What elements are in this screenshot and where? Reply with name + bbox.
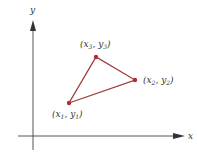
x-axis-arrow-icon (173, 133, 185, 139)
vertex-3-label: (x3, y3) (80, 39, 111, 50)
x-axis-label: x (188, 131, 193, 141)
vertex-2-label: (x2, y2) (143, 75, 174, 86)
y-axis-label: y (29, 5, 36, 15)
vertex-1 (67, 101, 71, 105)
vertex-1-label: (x1, y1) (52, 109, 83, 120)
triangle (69, 57, 135, 103)
vertex-2 (133, 78, 137, 82)
y-axis-arrow-icon (30, 20, 36, 31)
vertex-3 (94, 55, 98, 59)
coordinate-diagram: y x (x3, y3) (x2, y2) (x1, y1) (0, 0, 197, 154)
